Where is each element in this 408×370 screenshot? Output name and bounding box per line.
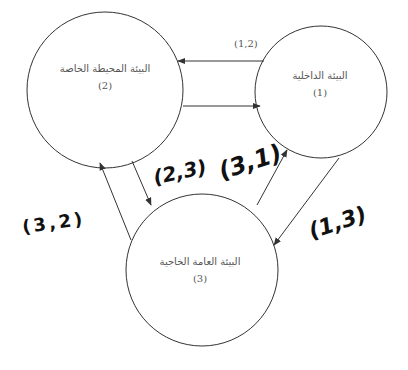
node-title-3: البيئة العامة الخاجية <box>140 253 260 270</box>
node-label-1: البيئة الداخلية (1) <box>270 67 370 101</box>
node-number-1: (1) <box>270 84 370 101</box>
node-title-2: البيئة المحيطة الخاصة <box>45 60 165 77</box>
node-label-3: البيئة العامة الخاجية (3) <box>140 253 260 287</box>
node-title-1: البيئة الداخلية <box>270 67 370 84</box>
arrow-2-to-3 <box>132 161 151 205</box>
node-label-2: البيئة المحيطة الخاصة (2) <box>45 60 165 94</box>
arrow-3-to-2 <box>100 163 131 240</box>
node-number-3: (3) <box>140 270 260 287</box>
edge-label-1-2: (1,2) <box>234 38 258 49</box>
diagram-canvas <box>0 0 408 370</box>
node-number-2: (2) <box>45 77 165 94</box>
